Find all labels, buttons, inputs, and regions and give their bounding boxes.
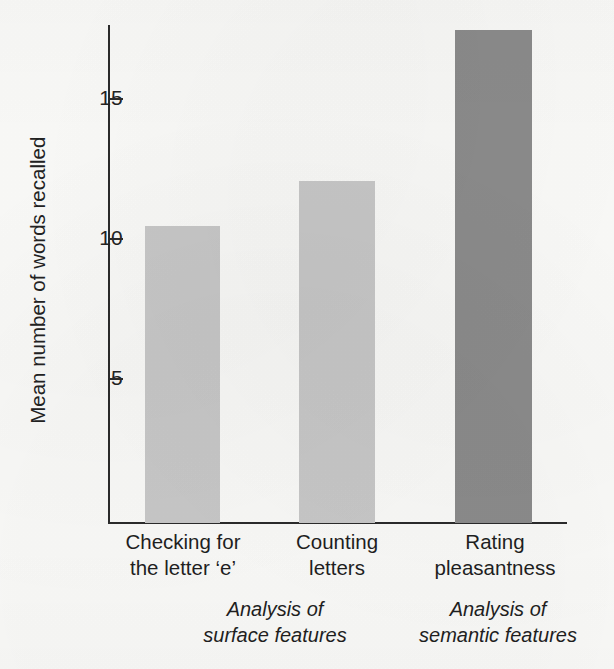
bar-rating-pleasantness xyxy=(455,30,532,523)
group-annotation-semantic-features: Analysis of semantic features xyxy=(400,596,596,648)
x-category-label-2: Rating pleasantness xyxy=(420,529,570,581)
chart-figure: 15 10 5 Mean number of words recalled Ch… xyxy=(0,0,614,669)
bar-counting-letters xyxy=(299,181,375,523)
bar-checking-for-the-letter-e xyxy=(145,226,220,523)
bars-layer xyxy=(0,0,614,523)
x-category-label-0: Checking for the letter ‘e’ xyxy=(112,529,254,581)
plot-area: 15 10 5 Mean number of words recalled Ch… xyxy=(0,0,614,669)
x-category-label-1: Counting letters xyxy=(266,529,408,581)
group-annotation-surface-features: Analysis of surface features xyxy=(185,596,365,648)
